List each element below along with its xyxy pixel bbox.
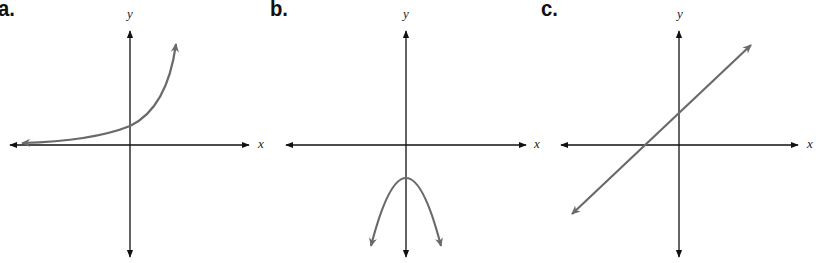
graph-c [561, 31, 798, 257]
graphs-canvas [0, 0, 818, 263]
linear-line-c [572, 45, 751, 214]
exponential-curve-a [22, 44, 176, 143]
graph-a [10, 31, 249, 257]
graph-b [286, 31, 526, 257]
